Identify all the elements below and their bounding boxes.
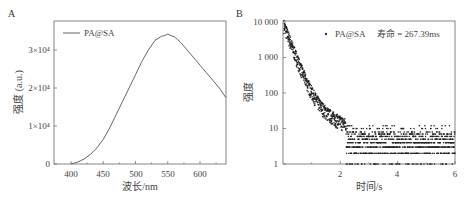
x-tick-label: 450 <box>96 169 110 179</box>
panel-a-y-label: 强度 (a.u.) <box>12 70 25 114</box>
panel-a: A 0 1×10⁴ 2×10⁴ 3×10⁴ 400 450 500 550 60… <box>8 8 226 192</box>
panel-b-x-label: 时间/s <box>356 180 383 192</box>
panel-b-label: B <box>236 8 243 19</box>
panel-b-x-ticks: 2 4 6 <box>338 169 458 179</box>
x-tick-label: 6 <box>453 169 458 179</box>
y-tick-label: 0 <box>46 159 51 169</box>
panel-b-legend-lifetime: 寿命 = 267.39ms <box>377 28 440 39</box>
panel-a-label: A <box>8 8 16 19</box>
y-tick-label: 10 <box>269 123 279 133</box>
x-tick-label: 550 <box>161 169 175 179</box>
legend-marker-icon <box>325 33 327 35</box>
panel-a-x-label: 波长/nm <box>122 180 158 192</box>
panel-b-y-ticks: 1 10 100 1 000 10 000 <box>253 17 278 169</box>
x-tick-label: 4 <box>395 169 400 179</box>
x-tick-label: 2 <box>338 169 343 179</box>
y-tick-label: 10 000 <box>253 17 278 27</box>
panel-b-y-label: 强度 <box>242 82 254 102</box>
figure: A 0 1×10⁴ 2×10⁴ 3×10⁴ 400 450 500 550 60… <box>0 0 465 208</box>
panel-b-legend-series: PA@SA <box>335 29 366 39</box>
panel-a-legend-label: PA@SA <box>84 28 115 38</box>
y-tick-label: 3×10⁴ <box>28 45 50 55</box>
panel-a-x-ticks: 400 450 500 550 600 <box>64 169 207 179</box>
y-tick-label: 1×10⁴ <box>28 121 50 131</box>
x-tick-label: 500 <box>129 169 143 179</box>
x-tick-label: 600 <box>193 169 207 179</box>
panel-a-tick-marks <box>54 50 216 164</box>
emission-spectrum-line <box>71 34 226 164</box>
panel-a-y-ticks: 0 1×10⁴ 2×10⁴ 3×10⁴ <box>28 45 50 169</box>
y-tick-label: 1 000 <box>258 52 279 62</box>
y-tick-label: 1 <box>274 159 279 169</box>
x-tick-label: 400 <box>64 169 78 179</box>
panel-a-frame <box>54 21 226 164</box>
panel-b: B 1 10 100 1 000 10 000 2 4 6 时间/s 强度 PA… <box>236 8 458 192</box>
y-tick-label: 2×10⁴ <box>28 83 50 93</box>
y-tick-label: 100 <box>265 88 279 98</box>
